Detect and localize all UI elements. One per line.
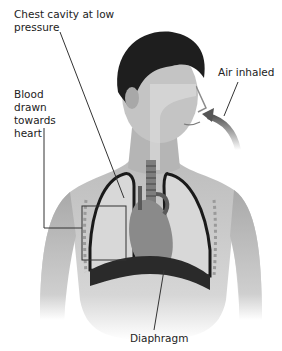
diaphragm-label: Diaphragm xyxy=(130,332,188,345)
anatomy-illustration xyxy=(0,0,282,351)
air-inhaled-arrow-icon xyxy=(202,108,238,150)
air-inhaled-label: Air inhaled xyxy=(218,66,274,79)
chest-cavity-label: Chest cavity at low pressure xyxy=(14,8,114,34)
respiratory-diagram: Chest cavity at low pressure Blood drawn… xyxy=(0,0,282,351)
blood-drawn-label: Blood drawn towards heart xyxy=(14,88,56,140)
